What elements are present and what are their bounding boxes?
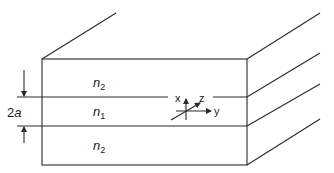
depth-edge-top-left bbox=[42, 13, 116, 59]
x-axis-label: x bbox=[175, 92, 181, 104]
label-core: n1 bbox=[93, 104, 105, 121]
depth-edge-top-right bbox=[247, 13, 320, 59]
depth-edge-bottom-right bbox=[247, 119, 320, 165]
z-axis-label: z bbox=[199, 92, 205, 104]
y-axis-label: y bbox=[214, 105, 220, 117]
slab-waveguide-diagram: 2a n2 n1 n2 x z y bbox=[0, 0, 334, 173]
label-cladding-top: n2 bbox=[93, 75, 105, 92]
dimension-label: 2a bbox=[7, 105, 21, 120]
label-cladding-bottom: n2 bbox=[93, 138, 105, 155]
